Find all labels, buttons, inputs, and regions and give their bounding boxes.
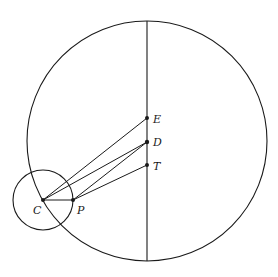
label-P: P — [76, 204, 85, 217]
segment-P-T — [73, 165, 147, 200]
geometry-diagram: E D T C P — [0, 0, 278, 277]
point-D — [145, 140, 149, 144]
point-E — [145, 116, 149, 120]
label-E: E — [152, 113, 161, 126]
segment-C-E — [43, 118, 147, 200]
label-C: C — [33, 204, 42, 217]
point-C — [41, 198, 45, 202]
label-D: D — [152, 136, 162, 149]
segment-P-D — [73, 142, 147, 200]
segment-C-D — [43, 142, 147, 200]
point-P — [71, 198, 75, 202]
label-T: T — [153, 160, 162, 173]
point-T — [145, 163, 149, 167]
